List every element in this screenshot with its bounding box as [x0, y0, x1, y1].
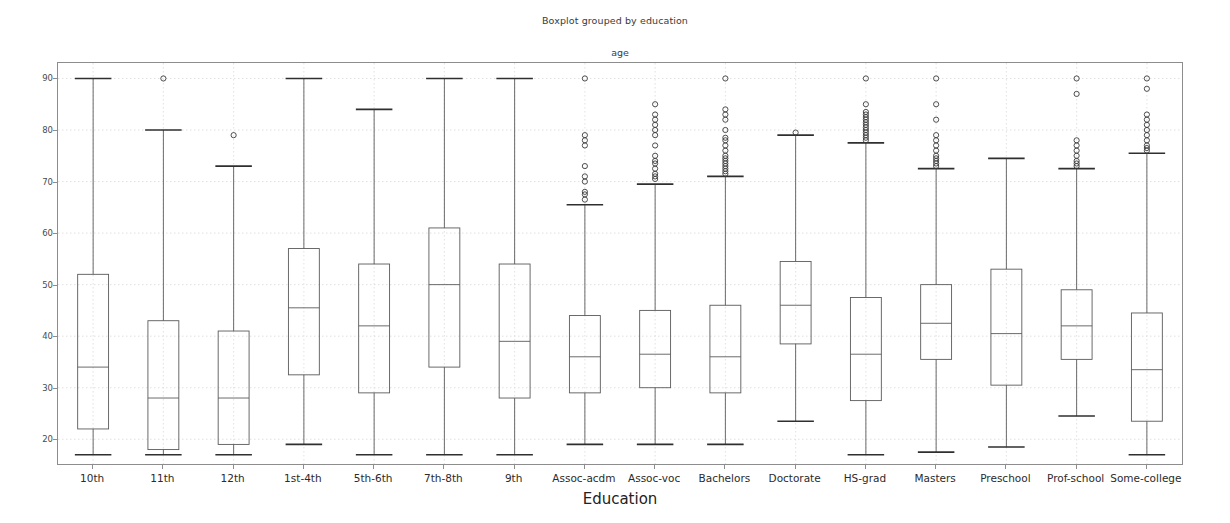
- x-tick-mark: [443, 465, 444, 469]
- x-tick-label: Bachelors: [699, 472, 751, 484]
- x-tick-mark: [1005, 465, 1006, 469]
- x-tick-mark: [584, 465, 585, 469]
- y-tick-mark: [53, 78, 57, 79]
- x-tick-label: Assoc-acdm: [552, 472, 615, 484]
- x-tick-label: 7th-8th: [424, 472, 463, 484]
- x-tick-mark: [865, 465, 866, 469]
- x-tick-mark: [654, 465, 655, 469]
- y-tick-mark: [53, 336, 57, 337]
- x-tick-mark: [92, 465, 93, 469]
- y-axis-tick-labels: 2030405060708090: [12, 0, 53, 523]
- y-tick-label: 20: [19, 434, 53, 444]
- x-tick-label: 12th: [221, 472, 245, 484]
- x-tick-label: Prof-school: [1047, 472, 1104, 484]
- x-tick-mark: [935, 465, 936, 469]
- x-tick-label: 11th: [150, 472, 174, 484]
- x-tick-mark: [514, 465, 515, 469]
- figure-canvas: Boxplot grouped by education age 2030405…: [0, 0, 1230, 523]
- x-tick-label: 1st-4th: [284, 472, 322, 484]
- y-tick-mark: [53, 285, 57, 286]
- box-group: [496, 78, 533, 454]
- x-tick-label: 10th: [80, 472, 104, 484]
- plot-area: [57, 62, 1183, 465]
- x-tick-label: HS-grad: [844, 472, 886, 484]
- y-tick-label: 50: [19, 280, 53, 290]
- y-tick-label: 70: [19, 177, 53, 187]
- box-group: [1058, 76, 1095, 416]
- x-tick-mark: [724, 465, 725, 469]
- y-tick-label: 80: [19, 125, 53, 135]
- x-tick-mark: [1146, 465, 1147, 469]
- outlier-point: [1144, 86, 1149, 91]
- axes-title: age: [57, 47, 1183, 58]
- x-tick-mark: [233, 465, 234, 469]
- x-tick-mark: [373, 465, 374, 469]
- y-tick-label: 60: [19, 228, 53, 238]
- y-tick-mark: [53, 439, 57, 440]
- box-group: [988, 158, 1025, 447]
- y-tick-label: 30: [19, 383, 53, 393]
- x-axis-label: Education: [57, 490, 1183, 508]
- box-group: [75, 78, 112, 454]
- box-group: [918, 76, 955, 452]
- box-group: [1129, 76, 1166, 455]
- box-group: [426, 78, 463, 454]
- x-tick-label: Some-college: [1110, 472, 1181, 484]
- y-tick-mark: [53, 233, 57, 234]
- box-group: [637, 102, 674, 445]
- box-group: [356, 109, 393, 454]
- outlier-point: [653, 166, 658, 171]
- x-tick-label: 9th: [505, 472, 522, 484]
- x-tick-mark: [162, 465, 163, 469]
- y-tick-mark: [53, 130, 57, 131]
- x-tick-label: 5th-6th: [354, 472, 393, 484]
- box-group: [848, 76, 885, 455]
- y-tick-label: 40: [19, 331, 53, 341]
- y-tick-mark: [53, 388, 57, 389]
- box-group: [286, 78, 323, 444]
- box-group: [145, 76, 182, 455]
- x-tick-label: Preschool: [980, 472, 1030, 484]
- x-tick-label: Masters: [914, 472, 955, 484]
- y-tick-mark: [53, 182, 57, 183]
- box-group: [215, 133, 252, 455]
- x-tick-label: Assoc-voc: [628, 472, 680, 484]
- boxplot-svg: [58, 63, 1182, 464]
- box-rect: [850, 298, 881, 401]
- figure-suptitle: Boxplot grouped by education: [0, 15, 1230, 26]
- x-tick-mark: [1076, 465, 1077, 469]
- x-tick-mark: [303, 465, 304, 469]
- box-rect: [429, 228, 460, 367]
- y-tick-label: 90: [19, 73, 53, 83]
- x-tick-mark: [795, 465, 796, 469]
- x-tick-label: Doctorate: [769, 472, 821, 484]
